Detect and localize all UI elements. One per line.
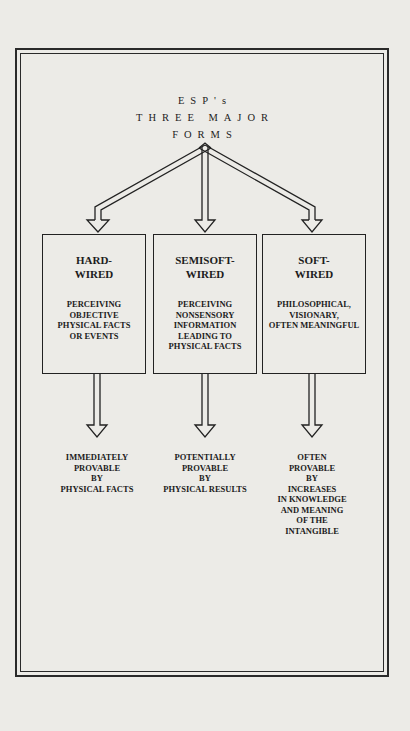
desc-line: INFORMATION — [154, 320, 256, 331]
desc-line: PHYSICAL FACTS — [154, 341, 256, 352]
outcome-line: PROVABLE — [257, 463, 367, 474]
outcome-line: PROVABLE — [42, 463, 152, 474]
outcome-line: INTANGIBLE — [257, 526, 367, 537]
desc-line: OBJECTIVE — [43, 310, 145, 321]
desc-line: PERCEIVING — [43, 299, 145, 310]
arrow-to-soft-wired-icon — [199, 145, 322, 232]
outcome-line: BY — [42, 473, 152, 484]
outcome-line: OFTEN — [257, 452, 367, 463]
arrow-soft-outcome-icon — [302, 374, 322, 437]
outcome-line: OF THE — [257, 515, 367, 526]
form-name: HARD- WIRED — [43, 253, 145, 281]
arrow-to-hard-wired-icon — [87, 145, 211, 232]
arrow-hard-outcome-icon — [87, 374, 107, 437]
outcome-line: POTENTIALLY — [150, 452, 260, 463]
form-name-line: WIRED — [263, 267, 365, 281]
form-box-hard-wired: HARD- WIRED PERCEIVING OBJECTIVE PHYSICA… — [42, 234, 146, 374]
form-name-line: SOFT- — [263, 253, 365, 267]
outcome-line: INCREASES — [257, 484, 367, 495]
form-name: SOFT- WIRED — [263, 253, 365, 281]
outcome-line: BY — [150, 473, 260, 484]
form-name: SEMISOFT- WIRED — [154, 253, 256, 281]
form-name-line: HARD- — [43, 253, 145, 267]
outcome-line: PHYSICAL RESULTS — [150, 484, 260, 495]
form-description: PERCEIVING OBJECTIVE PHYSICAL FACTS OR E… — [43, 299, 145, 341]
outcome-semisoft-wired: POTENTIALLY PROVABLE BY PHYSICAL RESULTS — [150, 452, 260, 494]
form-description: PHILOSOPHICAL, VISIONARY, OFTEN MEANINGF… — [263, 299, 365, 331]
outcome-line: AND MEANING — [257, 505, 367, 516]
desc-line: VISIONARY, — [263, 310, 365, 321]
desc-line: PHYSICAL FACTS — [43, 320, 145, 331]
form-name-line: WIRED — [154, 267, 256, 281]
form-box-soft-wired: SOFT- WIRED PHILOSOPHICAL, VISIONARY, OF… — [262, 234, 366, 374]
form-name-line: WIRED — [43, 267, 145, 281]
desc-line: PERCEIVING — [154, 299, 256, 310]
desc-line: OR EVENTS — [43, 331, 145, 342]
desc-line: LEADING TO — [154, 331, 256, 342]
outcome-line: PROVABLE — [150, 463, 260, 474]
outcome-soft-wired: OFTEN PROVABLE BY INCREASES IN KNOWLEDGE… — [257, 452, 367, 536]
outcome-line: IMMEDIATELY — [42, 452, 152, 463]
outcome-hard-wired: IMMEDIATELY PROVABLE BY PHYSICAL FACTS — [42, 452, 152, 494]
desc-line: OFTEN MEANINGFUL — [263, 320, 365, 331]
form-name-line: SEMISOFT- — [154, 253, 256, 267]
form-description: PERCEIVING NONSENSORY INFORMATION LEADIN… — [154, 299, 256, 352]
desc-line: PHILOSOPHICAL, — [263, 299, 365, 310]
outcome-line: PHYSICAL FACTS — [42, 484, 152, 495]
arrow-to-semisoft-wired-icon — [195, 147, 215, 232]
outcome-line: BY — [257, 473, 367, 484]
form-box-semisoft-wired: SEMISOFT- WIRED PERCEIVING NONSENSORY IN… — [153, 234, 257, 374]
arrow-semisoft-outcome-icon — [195, 374, 215, 437]
desc-line: NONSENSORY — [154, 310, 256, 321]
outcome-line: IN KNOWLEDGE — [257, 494, 367, 505]
